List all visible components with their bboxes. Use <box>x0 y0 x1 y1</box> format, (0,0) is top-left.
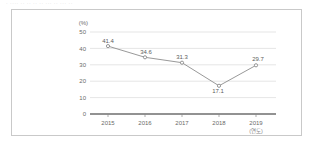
x-tick-label-2015: 2015 <box>101 120 115 126</box>
series-line-path <box>108 46 256 86</box>
chart-svg: (%) 50 40 30 20 10 0 41.4 34.6 31.3 17.1 <box>12 10 303 137</box>
marker-2015[interactable] <box>106 45 109 48</box>
marker-2017[interactable] <box>180 61 183 64</box>
x-axis-unit-label: (연도) <box>249 127 263 134</box>
marker-2019[interactable] <box>254 64 257 67</box>
point-label-2015: 41.4 <box>102 38 114 44</box>
marker-2016[interactable] <box>143 56 146 59</box>
y-tick-label-50: 50 <box>79 29 86 35</box>
y-tick-label-10: 10 <box>79 95 86 101</box>
line-chart: (%) 50 40 30 20 10 0 41.4 34.6 31.3 17.1 <box>12 10 303 137</box>
top-caption-text: · ···· ·· ·· ·· ·· ··· ·· ··· ·· <box>6 0 156 6</box>
marker-2018[interactable] <box>217 84 220 87</box>
gridlines <box>90 32 276 98</box>
point-label-2019: 29.7 <box>252 56 264 62</box>
y-axis-unit-label: (%) <box>79 20 88 26</box>
x-tick-label-2018: 2018 <box>212 120 226 126</box>
x-tick-label-2019: 2019 <box>249 120 263 126</box>
y-tick-label-20: 20 <box>79 78 86 84</box>
point-label-2018: 17.1 <box>212 88 224 94</box>
x-tick-label-2017: 2017 <box>175 120 189 126</box>
point-label-2017: 31.3 <box>176 54 188 60</box>
x-tick-label-2016: 2016 <box>138 120 152 126</box>
figure-frame: (%) 50 40 30 20 10 0 41.4 34.6 31.3 17.1 <box>11 9 302 136</box>
y-tick-label-30: 30 <box>79 62 86 68</box>
y-tick-label-0: 0 <box>83 111 87 117</box>
y-tick-label-40: 40 <box>79 46 86 52</box>
point-label-2016: 34.6 <box>140 49 152 55</box>
